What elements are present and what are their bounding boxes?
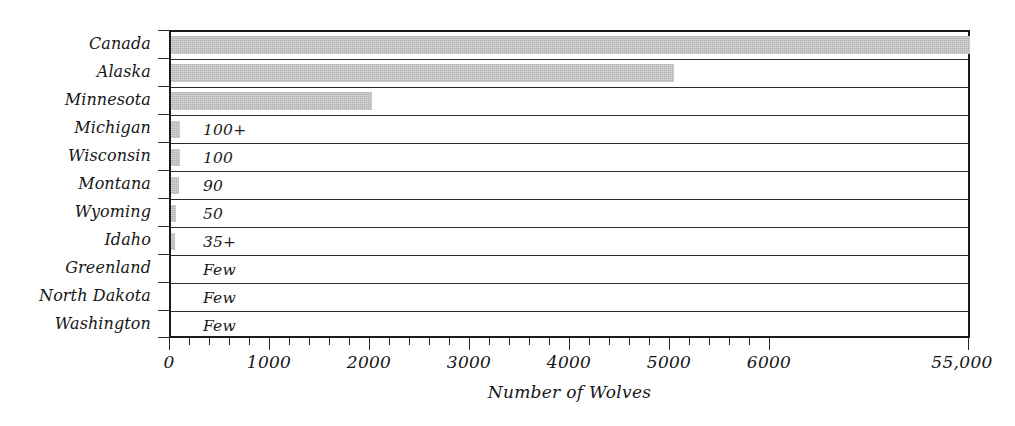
bar-row-montana: 90 <box>171 172 968 200</box>
bar-montana <box>171 177 179 194</box>
category-label-minnesota: Minnesota <box>0 86 160 114</box>
x-tick-minor <box>749 338 750 345</box>
bar-row-north-dakota: Few <box>171 284 968 312</box>
x-tick-minor <box>609 338 610 345</box>
category-label-canada: Canada <box>0 30 160 58</box>
x-axis <box>169 338 970 352</box>
bar-canada <box>171 36 970 54</box>
category-axis-labels: Canada Alaska Minnesota Michigan Wiscons… <box>0 30 160 338</box>
plot-area: 100+ 100 90 50 35+ Few Few Few <box>169 30 970 338</box>
x-tick-minor <box>389 338 390 345</box>
bar-row-greenland: Few <box>171 256 968 284</box>
bar-idaho <box>171 233 175 250</box>
bar-value-idaho: 35+ <box>203 233 236 251</box>
x-tick-minor <box>549 338 550 345</box>
bar-value-montana: 90 <box>203 177 223 195</box>
x-tick-minor <box>649 338 650 345</box>
category-label-idaho: Idaho <box>0 226 160 254</box>
bar-row-minnesota <box>171 88 968 116</box>
x-tick-major <box>669 338 670 350</box>
bar-wisconsin <box>171 149 180 166</box>
bar-wyoming <box>171 205 176 222</box>
x-tick-major-break <box>968 338 969 350</box>
x-tick-major <box>269 338 270 350</box>
bar-value-north-dakota: Few <box>203 289 236 307</box>
x-tick-minor <box>249 338 250 345</box>
bar-alaska <box>171 64 674 82</box>
bar-michigan <box>171 121 180 138</box>
chart-page: Canada Alaska Minnesota Michigan Wiscons… <box>0 0 1015 426</box>
bar-value-michigan: 100+ <box>203 121 246 139</box>
x-tick-minor <box>529 338 530 345</box>
x-tick-minor <box>489 338 490 345</box>
bar-value-wisconsin: 100 <box>203 149 233 167</box>
x-tick-minor <box>209 338 210 345</box>
x-tick-minor <box>509 338 510 345</box>
x-tick-label-2000: 2000 <box>347 352 391 372</box>
x-tick-minor <box>689 338 690 345</box>
category-label-wyoming: Wyoming <box>0 198 160 226</box>
bar-value-washington: Few <box>203 317 236 335</box>
bar-row-wyoming: 50 <box>171 200 968 228</box>
x-tick-minor <box>189 338 190 345</box>
x-tick-minor <box>329 338 330 345</box>
category-label-michigan: Michigan <box>0 114 160 142</box>
bar-minnesota <box>171 92 372 110</box>
bar-row-canada <box>171 32 968 60</box>
bar-row-michigan: 100+ <box>171 116 968 144</box>
x-tick-label-4000: 4000 <box>547 352 591 372</box>
x-axis-title: Number of Wolves <box>169 382 970 402</box>
category-label-montana: Montana <box>0 170 160 198</box>
x-tick-major <box>769 338 770 350</box>
x-tick-minor <box>349 338 350 345</box>
x-tick-label-6000: 6000 <box>747 352 791 372</box>
x-tick-major <box>169 338 170 350</box>
x-tick-minor <box>709 338 710 345</box>
x-tick-minor <box>729 338 730 345</box>
bar-row-wisconsin: 100 <box>171 144 968 172</box>
x-tick-label-5000: 5000 <box>647 352 691 372</box>
category-label-north-dakota: North Dakota <box>0 282 160 310</box>
x-tick-minor <box>629 338 630 345</box>
category-label-washington: Washington <box>0 310 160 338</box>
bar-row-alaska <box>171 60 968 88</box>
x-tick-minor <box>449 338 450 345</box>
x-tick-major <box>469 338 470 350</box>
bar-value-wyoming: 50 <box>203 205 223 223</box>
x-tick-label-0: 0 <box>163 352 174 372</box>
category-label-alaska: Alaska <box>0 58 160 86</box>
x-tick-minor <box>289 338 290 345</box>
x-tick-label-1000: 1000 <box>247 352 291 372</box>
x-tick-major <box>369 338 370 350</box>
x-tick-label-55000: 55,000 <box>931 352 992 372</box>
category-label-wisconsin: Wisconsin <box>0 142 160 170</box>
x-tick-minor <box>409 338 410 345</box>
bar-row-washington: Few <box>171 312 968 340</box>
x-tick-label-3000: 3000 <box>447 352 491 372</box>
x-tick-major <box>569 338 570 350</box>
category-label-greenland: Greenland <box>0 254 160 282</box>
bar-value-greenland: Few <box>203 261 236 279</box>
x-tick-minor <box>429 338 430 345</box>
bar-row-idaho: 35+ <box>171 228 968 256</box>
x-tick-minor <box>309 338 310 345</box>
x-tick-minor <box>229 338 230 345</box>
x-tick-minor <box>589 338 590 345</box>
